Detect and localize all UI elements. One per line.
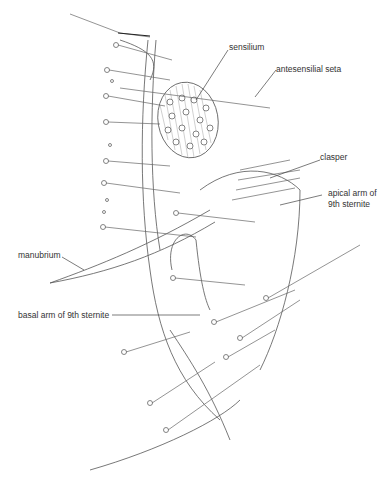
sensilium-leader: [196, 50, 228, 100]
label-antesensilial-seta: antesensilial seta: [276, 64, 341, 74]
label-apical-arm-line1: apical arm of: [328, 188, 377, 198]
label-sensilium: sensilium: [229, 42, 264, 52]
anatomical-diagram: sensilium antesensilial seta clasper api…: [0, 0, 392, 483]
label-clasper: clasper: [320, 152, 347, 162]
manubrium-leader: [62, 257, 84, 270]
apical-arm-leader: [280, 195, 322, 205]
label-manubrium: manubrium: [18, 250, 61, 260]
label-basal-arm: basal arm of 9th sternite: [18, 310, 109, 320]
clasper-outline: [200, 171, 300, 370]
label-apical-arm-line2: 9th sternite: [328, 199, 370, 209]
antesensilial-leader: [255, 70, 276, 97]
manubrium-outline: [50, 210, 210, 283]
